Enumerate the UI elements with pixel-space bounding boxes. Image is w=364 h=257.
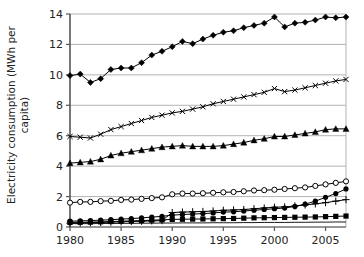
marker-open-circle <box>108 198 113 203</box>
marker-filled-circle <box>343 186 348 191</box>
marker-filled-square <box>221 216 226 221</box>
marker-filled-diamond <box>179 38 185 44</box>
marker-plus <box>281 203 288 210</box>
marker-filled-square <box>251 215 256 220</box>
marker-filled-square <box>180 217 185 222</box>
marker-open-circle <box>282 186 287 191</box>
y-tick-label: 4 <box>56 160 63 173</box>
marker-filled-diamond <box>67 73 73 79</box>
marker-open-circle <box>323 182 328 187</box>
marker-open-circle <box>180 191 185 196</box>
marker-open-circle <box>343 179 348 184</box>
marker-open-circle <box>231 189 236 194</box>
x-tick-label: 1990 <box>158 234 186 247</box>
marker-filled-diamond <box>292 20 298 26</box>
y-tick-label: 0 <box>56 221 63 234</box>
y-tick-label: 12 <box>49 38 63 51</box>
y-tick-label: 14 <box>49 8 63 21</box>
marker-filled-square <box>262 215 267 220</box>
marker-filled-square <box>211 216 216 221</box>
marker-filled-diamond <box>333 15 339 21</box>
marker-filled-square <box>231 216 236 221</box>
axis-lines <box>70 14 346 227</box>
x-tick-label: 2005 <box>312 234 340 247</box>
marker-filled-diamond <box>323 14 329 20</box>
marker-filled-square <box>149 218 154 223</box>
x-axis-ticks: 198019851990199520002005 <box>56 227 340 247</box>
gridlines <box>70 14 346 227</box>
data-series-group <box>66 14 349 227</box>
marker-plus <box>342 196 349 203</box>
marker-open-circle <box>221 190 226 195</box>
marker-filled-square <box>313 214 318 219</box>
marker-plus <box>261 204 268 211</box>
y-tick-label: 2 <box>56 191 63 204</box>
y-axis-ticks: 02468101214 <box>49 8 70 234</box>
chart-plot-area: 02468101214 198019851990199520002005 <box>0 0 364 257</box>
marker-filled-diamond <box>241 25 247 31</box>
marker-filled-circle <box>333 191 338 196</box>
marker-open-circle <box>170 192 175 197</box>
marker-filled-square <box>282 215 287 220</box>
marker-filled-diamond <box>251 22 257 28</box>
marker-plus <box>250 205 257 212</box>
marker-filled-diamond <box>210 32 216 38</box>
x-tick-label: 2000 <box>260 234 288 247</box>
marker-plus <box>271 204 278 211</box>
marker-filled-square <box>323 214 328 219</box>
marker-open-circle <box>149 195 154 200</box>
marker-open-circle <box>159 195 164 200</box>
marker-filled-square <box>333 214 338 219</box>
marker-filled-square <box>129 218 134 223</box>
marker-plus <box>230 206 237 213</box>
marker-open-circle <box>139 196 144 201</box>
marker-filled-square <box>170 217 175 222</box>
marker-filled-square <box>303 215 308 220</box>
marker-filled-square <box>67 220 72 225</box>
marker-filled-square <box>241 216 246 221</box>
marker-plus <box>240 206 247 213</box>
marker-open-circle <box>88 199 93 204</box>
marker-x-cross <box>119 124 124 129</box>
marker-open-circle <box>78 199 83 204</box>
x-tick-label: 1980 <box>56 234 84 247</box>
marker-open-circle <box>292 186 297 191</box>
marker-open-circle <box>333 180 338 185</box>
marker-plus <box>332 198 339 205</box>
marker-plus <box>322 199 329 206</box>
marker-filled-diamond <box>231 28 237 34</box>
marker-filled-diamond <box>190 41 196 47</box>
series-line <box>70 17 346 82</box>
marker-open-circle <box>272 187 277 192</box>
marker-filled-diamond <box>128 65 134 71</box>
marker-filled-diamond <box>312 17 318 23</box>
marker-filled-square <box>190 216 195 221</box>
marker-open-circle <box>119 197 124 202</box>
marker-open-circle <box>211 190 216 195</box>
marker-open-circle <box>241 189 246 194</box>
y-tick-label: 10 <box>49 69 63 82</box>
marker-x-cross <box>108 127 113 132</box>
marker-filled-diamond <box>220 29 226 35</box>
marker-open-circle <box>129 197 134 202</box>
marker-filled-diamond <box>261 20 267 26</box>
series-series-cross <box>67 77 348 141</box>
marker-open-circle <box>190 191 195 196</box>
marker-open-circle <box>303 185 308 190</box>
marker-plus <box>302 201 309 208</box>
marker-open-circle <box>251 188 256 193</box>
marker-plus <box>291 202 298 209</box>
marker-x-cross <box>272 86 277 91</box>
marker-open-circle <box>262 188 267 193</box>
marker-open-circle <box>67 200 72 205</box>
marker-filled-square <box>343 213 348 218</box>
marker-x-cross <box>139 118 144 123</box>
marker-filled-square <box>292 215 297 220</box>
marker-x-cross <box>129 121 134 126</box>
marker-open-circle <box>200 191 205 196</box>
marker-open-circle <box>98 199 103 204</box>
marker-open-circle <box>313 183 318 188</box>
marker-filled-square <box>139 218 144 223</box>
marker-filled-diamond <box>159 48 165 54</box>
marker-filled-square <box>272 215 277 220</box>
